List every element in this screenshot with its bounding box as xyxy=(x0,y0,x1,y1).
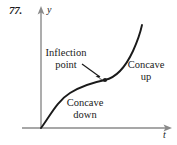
inflection-label-line1: Inflection xyxy=(46,47,87,58)
inflection-point-label: Inflection point xyxy=(42,48,90,70)
inflection-label-line2: point xyxy=(42,60,90,71)
concave-up-line1: Concave xyxy=(128,59,165,70)
y-axis-label: y xyxy=(47,5,51,15)
exercise-number: 77. xyxy=(9,5,22,16)
inflection-point-marker xyxy=(103,78,107,82)
concave-down-line2: down xyxy=(60,110,110,121)
concave-up-line2: up xyxy=(122,72,170,83)
t-axis xyxy=(22,125,172,132)
t-axis-label: t xyxy=(163,130,166,140)
concave-down-label: Concave down xyxy=(60,98,110,120)
inflection-point-figure: 77. y t Inflection point Concave up Conc… xyxy=(0,0,177,145)
concave-down-line1: Concave xyxy=(67,97,104,108)
concave-up-label: Concave up xyxy=(122,60,170,82)
